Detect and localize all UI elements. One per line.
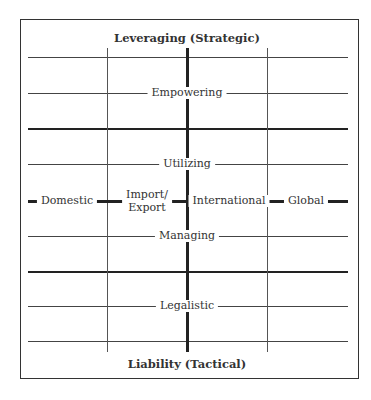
level-empowering: Empowering <box>148 87 227 99</box>
scope-global: Global <box>284 195 328 207</box>
level-managing: Managing <box>155 230 219 242</box>
level-legalistic: Legalistic <box>156 300 218 312</box>
bottom-axis-label: Liability (Tactical) <box>128 357 246 371</box>
scope-domestic: Domestic <box>37 195 97 207</box>
scope-international: International <box>189 195 270 207</box>
top-axis-label: Leveraging (Strategic) <box>114 31 260 45</box>
scope-import-export: Import/Export <box>122 188 172 214</box>
level-utilizing: Utilizing <box>159 158 215 170</box>
